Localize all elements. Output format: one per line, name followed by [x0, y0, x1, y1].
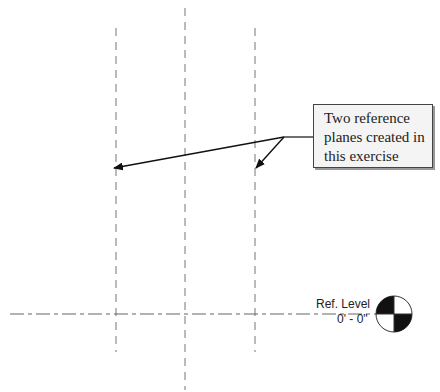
callout-line: planes created in [324, 128, 426, 147]
leader-arrow-left [114, 137, 284, 168]
level-head-icon[interactable] [376, 296, 412, 332]
level-elevation[interactable]: 0' - 0" [337, 313, 368, 326]
level-name[interactable]: Ref. Level [316, 298, 370, 311]
callout-line: this exercise [324, 147, 426, 166]
callout-box: Two reference planes created in this exe… [313, 104, 433, 168]
drawing-canvas [0, 0, 440, 392]
callout-line: Two reference [324, 109, 426, 128]
